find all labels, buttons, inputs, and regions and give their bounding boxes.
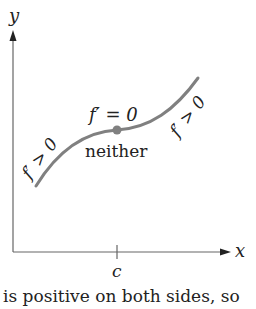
neither-label: neither — [85, 141, 148, 161]
right-derivative-label: f′ > 0 — [164, 92, 209, 142]
diagram-canvas: y x c f′ = 0 neither f′ > 0 f′ > 0 — [0, 0, 256, 309]
caption-text: is positive on both sides, so — [3, 286, 240, 306]
x-axis-label: x — [235, 240, 245, 261]
y-axis-label: y — [8, 5, 20, 26]
inflection-point — [113, 126, 122, 135]
critical-point-label: f′ = 0 — [87, 104, 138, 125]
tick-label-c: c — [112, 261, 122, 281]
x-axis-arrow-icon — [220, 249, 231, 256]
y-axis-arrow-icon — [10, 30, 17, 41]
